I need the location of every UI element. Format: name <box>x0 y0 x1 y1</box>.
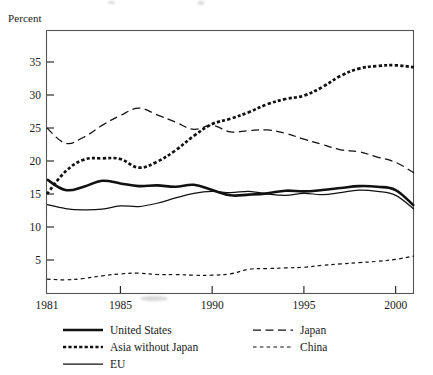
x-tick-label-2000: 2000 <box>384 299 407 311</box>
y-tick-label-20: 20 <box>30 155 42 167</box>
legend-item-united-states: United States <box>62 322 172 337</box>
legend-swatch-united-states <box>62 324 104 336</box>
chart-legend: United StatesAsia without JapanEUJapanCh… <box>62 322 392 372</box>
series-line-china <box>47 256 414 280</box>
legend-item-asia-without-japan: Asia without Japan <box>62 339 198 354</box>
x-tick-label-1985: 1985 <box>109 299 132 311</box>
legend-swatch-asia-without-japan <box>62 341 104 353</box>
plot-area: 5101520253035 19811985199019952000 <box>0 0 433 375</box>
x-axis-tick-labels: 19811985199019952000 <box>36 299 408 311</box>
x-tick-label-1995: 1995 <box>292 299 315 311</box>
series-line-eu <box>47 190 414 210</box>
legend-label: EU <box>110 358 125 370</box>
legend-swatch-japan <box>252 324 294 336</box>
legend-swatch-eu <box>62 358 104 370</box>
legend-label: Asia without Japan <box>110 341 198 353</box>
x-axis-ticks <box>120 286 395 293</box>
y-tick-label-5: 5 <box>35 254 41 266</box>
legend-label: China <box>300 341 327 353</box>
legend-label: Japan <box>300 324 326 336</box>
y-tick-label-30: 30 <box>30 89 42 101</box>
y-tick-label-35: 35 <box>30 56 42 68</box>
x-tick-label-1981: 1981 <box>36 299 59 311</box>
y-axis-tick-labels: 5101520253035 <box>30 56 42 266</box>
legend-label: United States <box>110 324 172 336</box>
legend-swatch-china <box>252 341 294 353</box>
y-axis-ticks <box>47 62 54 260</box>
y-tick-label-15: 15 <box>30 188 42 200</box>
series-line-asia-without-japan <box>47 65 414 194</box>
legend-item-china: China <box>252 339 327 354</box>
series-line-japan <box>47 108 414 173</box>
data-series-group <box>47 65 414 280</box>
legend-item-japan: Japan <box>252 322 326 337</box>
y-tick-label-25: 25 <box>30 122 42 134</box>
y-tick-label-10: 10 <box>30 221 42 233</box>
chart-figure: Percent 5101520253035 198119851990199520… <box>0 0 433 375</box>
legend-item-eu: EU <box>62 356 125 371</box>
x-tick-label-1990: 1990 <box>201 299 224 311</box>
